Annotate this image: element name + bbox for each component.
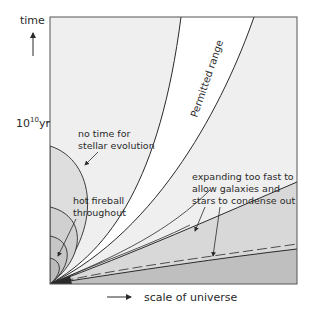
y-tick-label: 1010yr bbox=[16, 116, 50, 130]
y-axis-label: time bbox=[20, 14, 45, 27]
no-time-label-line2: stellar evolution bbox=[78, 140, 155, 151]
hot-fireball-label-line1: hot fireball bbox=[73, 195, 124, 206]
expanding-label-line2: allow galaxies and bbox=[192, 183, 280, 194]
expanding-label-line3: stars to condense out bbox=[192, 195, 296, 206]
hot-fireball-label-line2: throughout bbox=[73, 207, 126, 218]
x-axis-label: scale of universe bbox=[144, 291, 237, 304]
universe-expansion-diagram: time 1010yr Permitted range no time for … bbox=[0, 0, 316, 313]
expanding-label-line1: expanding too fast to bbox=[192, 171, 294, 182]
no-time-label-line1: no time for bbox=[78, 128, 130, 139]
